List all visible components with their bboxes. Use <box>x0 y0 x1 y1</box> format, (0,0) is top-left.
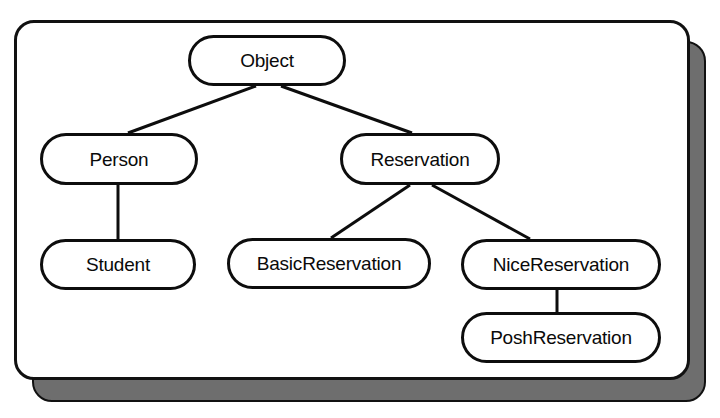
node-student-label: Student <box>86 255 150 274</box>
node-person-label: Person <box>89 150 148 169</box>
node-person[interactable]: Person <box>40 133 198 185</box>
node-basic-reservation[interactable]: BasicReservation <box>227 238 431 289</box>
node-nice-reservation-label: NiceReservation <box>493 255 629 274</box>
node-object[interactable]: Object <box>188 35 346 86</box>
node-object-label: Object <box>240 51 294 70</box>
node-nice-reservation[interactable]: NiceReservation <box>461 239 661 290</box>
node-posh-reservation[interactable]: PoshReservation <box>461 312 661 363</box>
node-basic-reservation-label: BasicReservation <box>257 254 402 273</box>
node-posh-reservation-label: PoshReservation <box>490 328 632 347</box>
node-reservation[interactable]: Reservation <box>340 133 500 185</box>
node-student[interactable]: Student <box>40 239 196 290</box>
diagram-canvas: Object Person Reservation Student BasicR… <box>0 0 720 418</box>
node-reservation-label: Reservation <box>370 150 469 169</box>
